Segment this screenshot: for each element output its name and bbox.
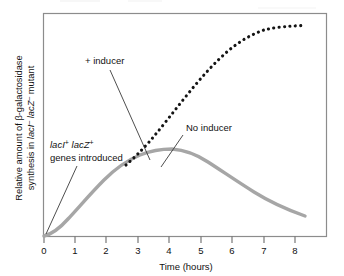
y-axis-title-line1: Relative amount of β-galactosidase (14, 55, 24, 200)
y-axis-title: Relative amount of β-galactosidase synth… (14, 55, 36, 200)
y-axis-title-line2: synthesis in lacI– lacZ– mutant (25, 65, 37, 190)
y-title-suffix: mutant (26, 65, 36, 96)
scan-artifact (128, 0, 162, 2)
scan-artifact (60, 0, 100, 2)
annotation-no-inducer-label: No inducer (186, 122, 232, 133)
x-tick-label: 5 (198, 245, 203, 256)
x-axis-ticks (44, 237, 295, 244)
y-title-lacz: lacZ (26, 100, 36, 120)
annotation-genes-line1: lacI+ lacZ+ (50, 139, 94, 151)
y-title-prefix: synthesis in (26, 139, 36, 190)
plot-frame (44, 14, 327, 237)
x-tick-label: 0 (41, 245, 46, 256)
annotation-genes-line2: genes introduced (50, 152, 123, 163)
scan-artifact (258, 7, 316, 9)
x-tick-label: 2 (103, 245, 108, 256)
x-axis-title: Time (hours) (159, 261, 213, 272)
genes-lacz: lacZ (69, 139, 91, 150)
genes-lacz-sup: + (89, 139, 93, 146)
y-title-laci: lacI (26, 124, 36, 139)
x-tick-label: 8 (292, 245, 297, 256)
x-tick-label: 4 (166, 245, 171, 256)
genes-laci: lacI (50, 139, 65, 150)
x-tick-label: 6 (229, 245, 234, 256)
x-tick-label: 7 (261, 245, 266, 256)
figure-container: 0 1 2 3 4 5 6 7 8 Time (hours) Relative … (0, 0, 344, 276)
annotation-plus-inducer-label: + inducer (85, 55, 124, 66)
x-tick-label: 3 (135, 245, 140, 256)
x-tick-label: 1 (72, 245, 77, 256)
x-axis-tick-labels: 0 1 2 3 4 5 6 7 8 (41, 245, 297, 256)
chart-svg: 0 1 2 3 4 5 6 7 8 Time (hours) Relative … (0, 0, 344, 276)
